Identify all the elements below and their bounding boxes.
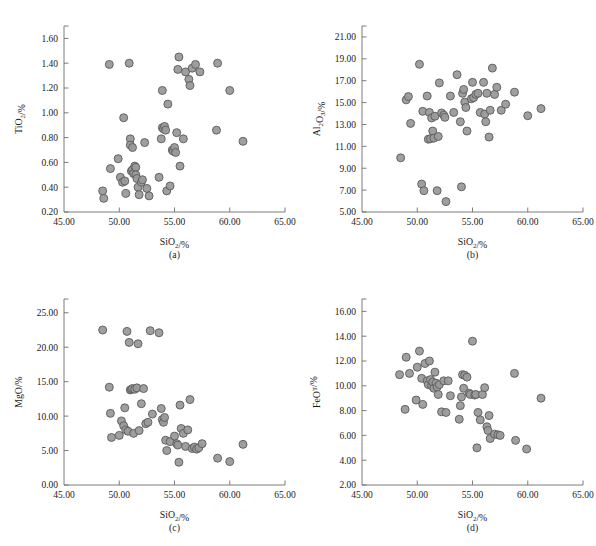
y-tick-label: 17.00 xyxy=(335,76,357,86)
y-tick-label: 4.00 xyxy=(339,456,356,466)
data-point xyxy=(176,162,184,170)
plot-d: 2.004.006.008.0010.0012.0014.0016.0045.0… xyxy=(298,273,596,546)
x-tick-label: 60.00 xyxy=(517,490,539,500)
data-point xyxy=(474,408,482,416)
y-tick-label: 0.40 xyxy=(41,183,58,193)
y-tick-label: 1.20 xyxy=(41,83,58,93)
data-point xyxy=(175,458,183,466)
data-point xyxy=(212,126,220,134)
data-point xyxy=(446,92,454,100)
data-point xyxy=(121,177,129,185)
data-point xyxy=(523,445,531,453)
data-point xyxy=(125,59,133,67)
data-point xyxy=(419,400,427,408)
data-point xyxy=(125,338,133,346)
data-point xyxy=(455,415,463,423)
x-tick-label: 50.00 xyxy=(109,217,131,227)
data-point xyxy=(488,64,496,72)
data-point xyxy=(524,112,532,120)
data-point xyxy=(100,194,108,202)
data-point xyxy=(483,89,491,97)
data-point xyxy=(434,133,442,141)
x-tick-label: 45.00 xyxy=(351,217,373,227)
y-tick-label: 0.80 xyxy=(41,133,58,143)
data-point xyxy=(485,133,493,141)
data-point xyxy=(134,340,142,348)
data-point xyxy=(163,447,171,455)
y-tick-label: 1.60 xyxy=(41,34,58,44)
y-tick-label: 5.00 xyxy=(339,207,356,217)
data-point xyxy=(184,426,192,434)
panel-caption: (d) xyxy=(467,522,478,534)
data-point xyxy=(502,100,510,108)
data-point xyxy=(106,165,114,173)
scatter-panel-c: 0.005.0010.0015.0020.0025.0045.0050.0055… xyxy=(0,273,298,546)
data-point xyxy=(129,144,137,152)
data-point xyxy=(171,432,179,440)
data-point xyxy=(179,135,187,143)
data-point xyxy=(173,129,181,137)
data-point xyxy=(469,337,477,345)
data-point xyxy=(420,187,428,195)
data-point xyxy=(407,119,415,127)
data-point xyxy=(114,155,122,163)
data-point xyxy=(434,390,442,398)
data-point xyxy=(99,187,107,195)
data-point xyxy=(460,85,468,93)
data-point xyxy=(481,384,489,392)
data-point xyxy=(537,394,545,402)
scatter-panel-a: 0.200.400.600.801.001.201.401.6045.0050.… xyxy=(0,0,298,273)
data-point xyxy=(485,412,493,420)
x-tick-label: 55.00 xyxy=(462,490,484,500)
data-point xyxy=(137,400,145,408)
y-tick-label: 10.00 xyxy=(37,412,59,422)
data-point xyxy=(157,135,165,143)
data-point xyxy=(175,53,183,61)
data-point xyxy=(172,148,180,156)
data-point xyxy=(415,347,423,355)
x-tick-label: 60.00 xyxy=(517,217,539,227)
data-point xyxy=(123,327,131,335)
data-point xyxy=(415,60,423,68)
data-point xyxy=(397,154,405,162)
data-point xyxy=(401,405,409,413)
data-point xyxy=(105,60,113,68)
data-point xyxy=(174,441,182,449)
scatter-panel-b: 5.007.009.0011.0013.0015.0017.0019.0021.… xyxy=(298,0,596,273)
plot-c: 0.005.0010.0015.0020.0025.0045.0050.0055… xyxy=(0,273,298,546)
data-points-group xyxy=(99,326,247,466)
data-point xyxy=(493,83,501,91)
data-point xyxy=(413,363,421,371)
y-axis-title: TiO2/% xyxy=(13,104,27,134)
data-point xyxy=(141,139,149,147)
x-tick-label: 60.00 xyxy=(219,490,241,500)
data-point xyxy=(396,371,404,379)
data-point xyxy=(186,82,194,90)
data-point xyxy=(512,436,520,444)
data-point xyxy=(453,71,461,79)
x-tick-label: 55.00 xyxy=(164,490,186,500)
data-point xyxy=(132,163,140,171)
data-point xyxy=(121,404,129,412)
x-tick-label: 45.00 xyxy=(53,490,75,500)
scatter-panel-d: 2.004.006.008.0010.0012.0014.0016.0045.0… xyxy=(298,273,596,546)
x-tick-label: 60.00 xyxy=(219,217,241,227)
data-points-group xyxy=(396,337,545,453)
data-point xyxy=(442,198,450,206)
data-point xyxy=(140,385,148,393)
x-tick-label: 65.00 xyxy=(572,217,594,227)
y-tick-label: 6.00 xyxy=(339,431,356,441)
panel-caption: (c) xyxy=(169,522,180,534)
y-tick-label: 7.00 xyxy=(339,186,356,196)
data-point xyxy=(214,59,222,67)
data-point xyxy=(456,402,464,410)
data-point xyxy=(120,114,128,122)
y-tick-label: 13.00 xyxy=(335,120,357,130)
x-tick-label: 65.00 xyxy=(572,490,594,500)
data-point xyxy=(198,440,206,448)
x-tick-label: 65.00 xyxy=(274,217,296,227)
data-point xyxy=(473,444,481,452)
data-point xyxy=(106,409,114,417)
data-point xyxy=(425,357,433,365)
data-point xyxy=(108,433,116,441)
